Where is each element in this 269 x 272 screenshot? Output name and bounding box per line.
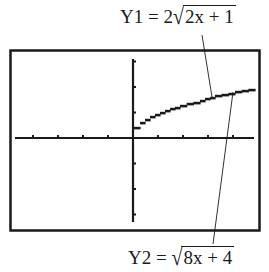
y2-leader-line — [213, 92, 233, 244]
viewing-window-frame — [11, 51, 260, 231]
y1-radicand: 2x + 1 — [183, 5, 236, 26]
axes — [15, 59, 254, 222]
y2-radical: √8x + 4 — [171, 246, 234, 267]
y2-equation-label: Y2 = √8x + 4 — [128, 246, 234, 267]
y1-equals: = — [148, 6, 159, 27]
y2-radicand: 8x + 4 — [181, 246, 234, 267]
y1-equation-label: Y1 = 2√2x + 1 — [120, 5, 236, 26]
y2-name: Y2 — [128, 247, 151, 268]
graph-plot — [0, 0, 269, 272]
y1-name: Y1 — [120, 6, 143, 27]
radical-sign-icon: √ — [173, 5, 184, 28]
radical-sign-icon: √ — [171, 246, 182, 269]
y1-leader-line — [202, 35, 212, 97]
function-curve — [134, 89, 256, 130]
y1-radical: √2x + 1 — [173, 5, 236, 26]
y1-coefficient: 2 — [163, 6, 173, 27]
y2-equals: = — [156, 247, 167, 268]
